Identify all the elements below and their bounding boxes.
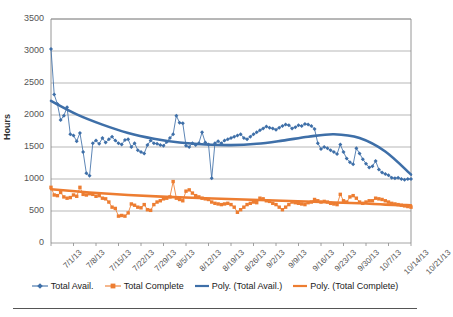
- bottom-divider: [13, 308, 417, 309]
- data-point-marker: [117, 214, 120, 217]
- data-point-marker: [78, 131, 82, 135]
- data-point-marker: [178, 121, 182, 125]
- data-point-marker: [53, 193, 56, 196]
- data-point-marker: [287, 203, 290, 206]
- data-point-marker: [120, 214, 123, 217]
- data-point-marker: [409, 177, 413, 181]
- data-point-marker: [355, 197, 358, 200]
- data-point-marker: [261, 197, 264, 200]
- data-point-marker: [216, 139, 220, 143]
- data-point-marker: [226, 202, 229, 205]
- data-point-marker: [368, 199, 371, 202]
- legend-marker-swatch: [32, 281, 48, 291]
- legend-label: Total Avail.: [51, 281, 94, 291]
- data-point-marker: [149, 209, 152, 212]
- data-point-marker: [339, 193, 342, 196]
- data-point-marker: [364, 200, 367, 203]
- data-point-marker: [374, 159, 378, 163]
- legend-item[interactable]: Total Avail.: [32, 281, 94, 291]
- data-point-marker: [294, 201, 297, 204]
- data-point-marker: [181, 121, 185, 125]
- data-point-marker: [245, 203, 248, 206]
- data-point-marker: [300, 202, 303, 205]
- data-point-marker: [200, 130, 204, 134]
- data-point-marker: [374, 197, 377, 200]
- data-point-marker: [303, 122, 307, 126]
- data-point-marker: [146, 208, 149, 211]
- data-point-marker: [126, 211, 129, 214]
- data-point-marker: [171, 180, 174, 183]
- data-point-marker: [236, 211, 239, 214]
- data-point-marker: [306, 201, 309, 204]
- data-point-marker: [326, 200, 329, 203]
- data-point-marker: [52, 93, 56, 97]
- data-point-marker: [290, 200, 293, 203]
- data-point-marker: [94, 195, 97, 198]
- data-point-marker: [136, 205, 139, 208]
- data-point-marker: [229, 203, 232, 206]
- data-point-marker: [351, 162, 355, 166]
- data-point-marker: [223, 202, 226, 205]
- data-point-marker: [342, 150, 346, 154]
- axis-lines: [51, 19, 411, 246]
- data-point-marker: [62, 195, 65, 198]
- data-point-marker: [220, 203, 223, 206]
- data-point-marker: [329, 202, 332, 205]
- data-point-marker: [268, 200, 271, 203]
- data-point-marker: [104, 197, 107, 200]
- data-point-marker: [130, 202, 133, 205]
- data-point-marker: [284, 205, 287, 208]
- data-point-marker: [351, 194, 354, 197]
- legend-line-swatch: [293, 281, 307, 291]
- data-point-marker: [361, 202, 364, 205]
- data-point-marker: [409, 205, 412, 208]
- data-point-marker: [242, 205, 245, 208]
- data-point-marker: [358, 151, 362, 155]
- data-point-marker: [136, 148, 140, 152]
- data-point-marker: [69, 196, 72, 199]
- data-point-marker: [387, 200, 390, 203]
- data-point-marker: [175, 197, 178, 200]
- data-point-marker: [213, 202, 216, 205]
- series-line: [51, 49, 411, 180]
- data-point-marker: [188, 188, 191, 191]
- data-point-marker: [396, 203, 399, 206]
- legend-item[interactable]: Poly. (Total Complete): [293, 281, 398, 291]
- data-point-marker: [194, 194, 197, 197]
- legend-marker-swatch: [105, 281, 121, 291]
- data-point-marker: [338, 142, 342, 146]
- data-point-marker: [300, 124, 304, 128]
- data-point-marker: [258, 128, 262, 132]
- data-point-marker: [197, 195, 200, 198]
- legend-item[interactable]: Poly. (Total Avail.): [195, 281, 283, 291]
- data-point-marker: [252, 200, 255, 203]
- data-point-marker: [49, 186, 52, 189]
- data-point-marker: [319, 200, 322, 203]
- data-point-marker: [332, 150, 336, 154]
- data-point-marker: [155, 200, 158, 203]
- data-point-marker: [233, 205, 236, 208]
- data-point-marker: [345, 200, 348, 203]
- data-point-marker: [162, 197, 165, 200]
- data-point-marker: [261, 126, 265, 130]
- data-point-marker: [316, 141, 320, 145]
- data-point-marker: [377, 197, 380, 200]
- data-point-marker: [181, 199, 184, 202]
- data-point-marker: [65, 197, 68, 200]
- data-point-marker: [81, 193, 84, 196]
- data-point-marker: [403, 178, 407, 182]
- data-point-marker: [297, 202, 300, 205]
- legend-item[interactable]: Total Complete: [105, 281, 184, 291]
- data-point-marker: [159, 199, 162, 202]
- data-point-marker: [107, 200, 110, 203]
- data-point-marker: [72, 193, 75, 196]
- data-point-marker: [335, 152, 339, 156]
- data-point-marker: [75, 195, 78, 198]
- data-point-marker: [56, 194, 59, 197]
- data-point-marker: [239, 208, 242, 211]
- data-point-marker: [400, 204, 403, 207]
- data-point-marker: [332, 202, 335, 205]
- data-point-marker: [210, 176, 214, 180]
- data-point-marker: [49, 47, 53, 51]
